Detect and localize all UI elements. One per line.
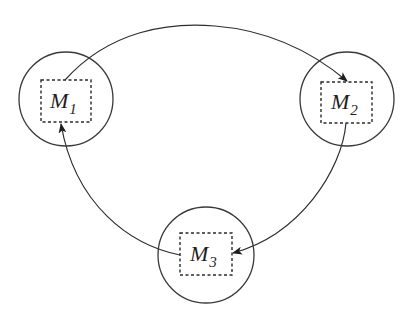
node-m3-label-sub: 3 — [208, 254, 217, 270]
node-m2-label: M2 — [330, 89, 358, 118]
node-m3-label: M3 — [189, 241, 217, 270]
node-m1-label-main: M — [49, 88, 70, 113]
node-m2-label-main: M — [330, 89, 351, 114]
node-m3: M3 — [158, 207, 254, 303]
diagram-canvas: M1 M2 M3 — [0, 0, 412, 318]
node-m1: M1 — [19, 52, 113, 146]
node-m2: M2 — [300, 52, 394, 146]
node-m3-label-main: M — [189, 241, 210, 266]
edge-m1-to-m2 — [65, 25, 347, 81]
node-m1-label-sub: 1 — [69, 101, 77, 117]
node-m2-label-sub: 2 — [350, 102, 358, 118]
node-m1-label: M1 — [49, 88, 77, 117]
